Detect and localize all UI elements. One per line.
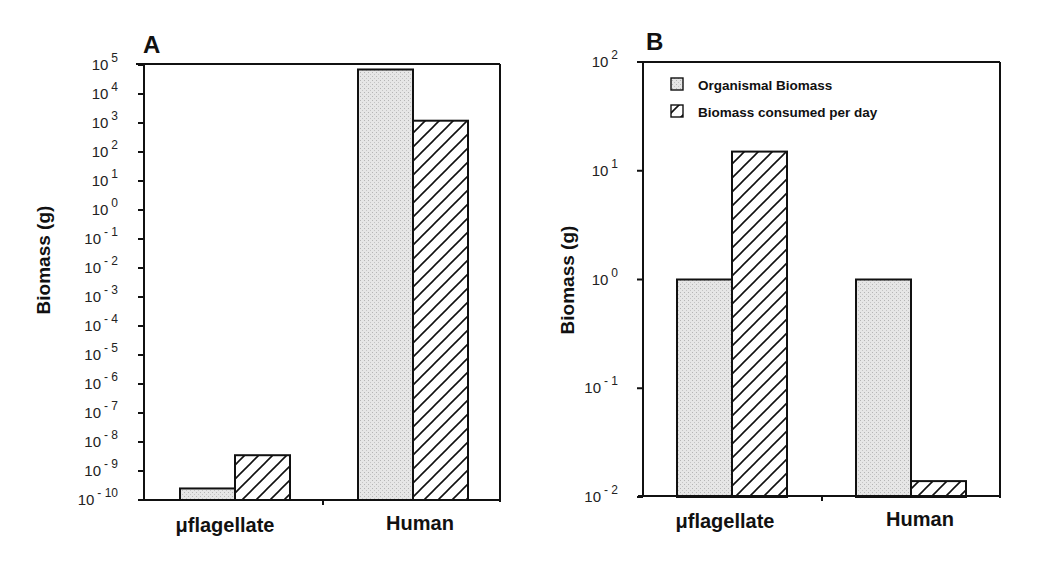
y-tick-label: 104 bbox=[92, 80, 119, 102]
y-tick-label: 10- 10 bbox=[78, 486, 119, 508]
bars-b bbox=[677, 152, 966, 497]
y-tick-label: 10- 1 bbox=[84, 225, 118, 247]
bars-a bbox=[180, 69, 468, 500]
y-tick-label: 10- 9 bbox=[84, 457, 118, 479]
y-tick-label: 101 bbox=[592, 157, 619, 179]
y-tick-label: 100 bbox=[92, 196, 119, 218]
x-label-a-0: μflagellate bbox=[176, 514, 275, 536]
y-tick-label: 102 bbox=[592, 48, 619, 70]
figure: A Biomass (g) 10510410310210110010- 110-… bbox=[0, 0, 1048, 564]
legend-swatch-organismal bbox=[671, 78, 683, 90]
legend-label-organismal: Organismal Biomass bbox=[698, 78, 832, 93]
bar-consumed-flagellate bbox=[235, 455, 290, 500]
panel-b: B Biomass (g) 10210110010- 110- 2 μflage… bbox=[557, 28, 1001, 532]
x-label-b-0: μflagellate bbox=[676, 510, 775, 532]
y-tick-label: 10- 2 bbox=[584, 483, 618, 505]
x-label-b-1: Human bbox=[886, 508, 954, 530]
y-tick-label: 10- 2 bbox=[84, 254, 118, 276]
y-tick-label: 10- 8 bbox=[84, 428, 118, 450]
legend: Organismal Biomass Biomass consumed per … bbox=[671, 78, 878, 120]
bar-consumed-human bbox=[413, 121, 468, 500]
y-tick-label: 10- 3 bbox=[84, 283, 118, 305]
y-tick-label: 10- 4 bbox=[84, 312, 118, 334]
y-tick-label: 101 bbox=[92, 167, 119, 189]
x-label-a-1: Human bbox=[386, 512, 454, 534]
bar-organismal-human bbox=[358, 69, 413, 500]
y-tick-label: 100 bbox=[592, 266, 619, 288]
panel-letter-a: A bbox=[143, 31, 160, 58]
panel-letter-b: B bbox=[646, 28, 663, 55]
y-tick-label: 103 bbox=[92, 109, 119, 131]
bar-organismal-flagellate bbox=[677, 280, 732, 498]
legend-label-consumed: Biomass consumed per day bbox=[698, 105, 878, 120]
y-tick-label: 10- 5 bbox=[84, 341, 118, 363]
panel-a: A Biomass (g) 10510410310210110010- 110-… bbox=[33, 31, 501, 536]
y-tick-label: 10- 7 bbox=[84, 399, 118, 421]
y-tick-label: 10- 1 bbox=[584, 374, 618, 396]
y-axis-title-a: Biomass (g) bbox=[33, 206, 54, 315]
y-tick-label: 105 bbox=[92, 51, 119, 73]
bar-consumed-human bbox=[911, 481, 966, 497]
bar-consumed-flagellate bbox=[732, 152, 787, 497]
bar-organismal-human bbox=[856, 280, 911, 498]
y-tick-label: 102 bbox=[92, 138, 119, 160]
bar-organismal-flagellate bbox=[180, 488, 235, 500]
y-axis-ticks-b: 10210110010- 110- 2 bbox=[584, 48, 643, 505]
y-axis-ticks-a: 10510410310210110010- 110- 210- 310- 410… bbox=[78, 51, 144, 508]
y-tick-label: 10- 6 bbox=[84, 370, 118, 392]
y-axis-title-b: Biomass (g) bbox=[557, 226, 578, 335]
legend-swatch-consumed bbox=[671, 105, 683, 117]
